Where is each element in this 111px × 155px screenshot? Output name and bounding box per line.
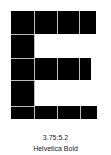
grid-line-vertical (79, 11, 80, 34)
glyph-top-bar (11, 11, 96, 34)
grid-line-horizontal (11, 106, 35, 107)
letter-e-glyph (0, 0, 111, 122)
grid-line-vertical (57, 11, 58, 34)
grid-line-vertical (57, 106, 58, 119)
grid-line-horizontal (11, 80, 35, 81)
aspect-ratio-label: 3.75:5.2 (0, 133, 111, 142)
grid-line-horizontal (11, 34, 35, 35)
grid-line-vertical (80, 106, 81, 119)
glyph-bottom-bar (11, 106, 97, 119)
grid-line-vertical (34, 11, 35, 119)
grid-line-vertical (57, 58, 58, 80)
font-name-label: Helvetica Bold (0, 144, 111, 153)
grid-line-horizontal (11, 58, 35, 59)
grid-line-vertical (79, 58, 80, 80)
